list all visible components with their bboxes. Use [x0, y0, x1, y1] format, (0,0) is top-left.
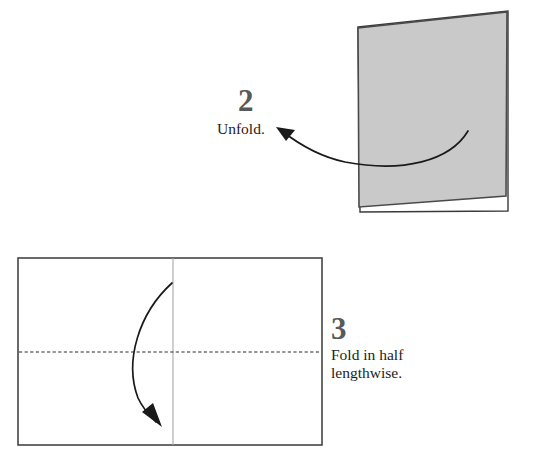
- step3-illustration: [18, 258, 322, 445]
- step-2-number: 2: [238, 85, 254, 116]
- step-2-caption: Unfold.: [217, 120, 265, 138]
- step-3-number: 3: [331, 313, 347, 344]
- step-3-caption: Fold in half lengthwise.: [331, 346, 403, 383]
- step2-illustration: [276, 11, 508, 212]
- origami-instruction-figure: [0, 0, 535, 454]
- paper-front-face: [358, 12, 507, 207]
- paper-rectangle: [18, 258, 322, 445]
